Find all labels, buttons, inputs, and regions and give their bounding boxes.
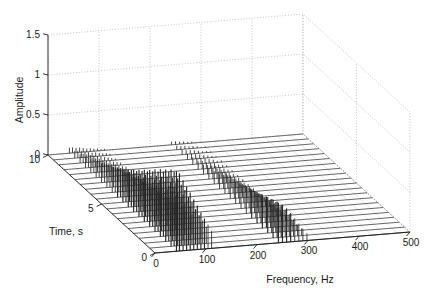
y-tick-label: 10 [29,154,41,165]
y-tick-label: 0 [141,252,147,263]
x-tick-label: 500 [403,237,420,248]
x-tick-label: 400 [352,241,369,252]
waterfall-mesh [48,134,410,299]
x-tick-label: 100 [199,254,216,265]
y-axis-title: Time, s [49,225,83,237]
x-tick-label: 200 [250,250,267,261]
x-tick-label: 300 [301,245,318,256]
figure-3d-waterfall-plot: 00.511.505100100200300400500 Amplitude T… [0,0,444,299]
y-tick-label: 5 [88,203,94,214]
x-tick-label: 0 [153,258,159,269]
x-axis-title: Frequency, Hz [266,273,334,285]
z-tick-label: 1 [34,69,40,80]
z-axis-title: Amplitude [13,77,25,124]
z-tick-label: 1.5 [26,29,40,40]
z-tick-label: 0.5 [26,109,40,120]
plot-canvas: 00.511.505100100200300400500 Amplitude T… [0,0,444,299]
